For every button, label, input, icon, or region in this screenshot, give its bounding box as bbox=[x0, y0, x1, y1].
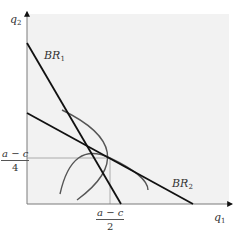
diagram-canvas: q2 q1 BR1 BR2 a − c 4 a − c 2 bbox=[0, 0, 237, 237]
y-axis-label: q2 bbox=[10, 14, 22, 27]
y-tick-fraction: a − c 4 bbox=[1, 149, 29, 173]
plot-svg bbox=[0, 0, 237, 237]
x-axis-label: q1 bbox=[214, 212, 226, 225]
plot-area bbox=[27, 14, 229, 204]
br2-label: BR2 bbox=[172, 178, 193, 191]
br1-label: BR1 bbox=[44, 50, 65, 63]
x-tick-fraction: a − c 2 bbox=[96, 208, 124, 232]
